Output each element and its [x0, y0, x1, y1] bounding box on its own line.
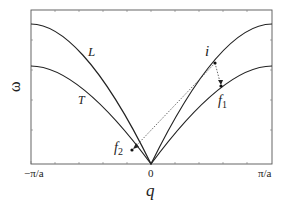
branch-L-curve	[31, 24, 272, 164]
dispersion-diagram: L T i f1 f2 −π/a 0 π/a q ω	[0, 0, 289, 211]
x-tick-min: −π/a	[24, 167, 44, 179]
y-axis-label: ω	[6, 81, 23, 92]
point-f1	[219, 84, 222, 87]
x-tick-max: π/a	[258, 167, 272, 179]
branch-T-curve	[31, 66, 272, 164]
label-L: L	[87, 44, 95, 59]
point-i	[213, 61, 216, 64]
label-T: T	[78, 93, 86, 107]
label-f2: f2	[114, 140, 123, 157]
label-f1: f1	[218, 93, 227, 110]
arrowhead-f1-icon	[218, 80, 223, 85]
x-tick-zero: 0	[148, 167, 154, 179]
x-axis-label: q	[146, 181, 155, 200]
plot-frame	[31, 10, 272, 164]
point-f2	[130, 148, 133, 151]
transition-i-f1	[215, 63, 220, 82]
label-i: i	[205, 43, 209, 59]
tick-marks	[31, 10, 272, 164]
